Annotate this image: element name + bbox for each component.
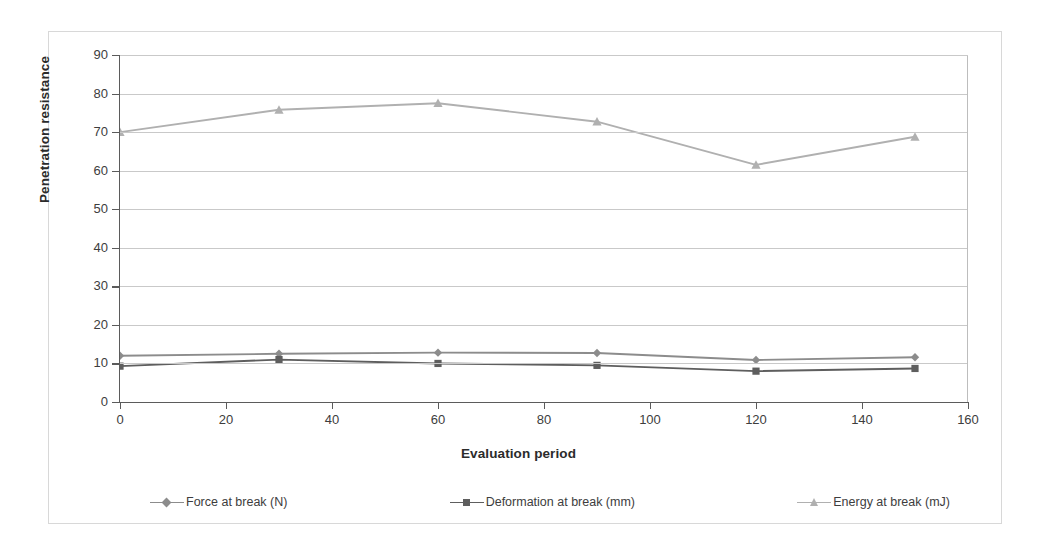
gridline <box>120 94 968 95</box>
x-tick-label: 140 <box>839 412 885 427</box>
data-point-marker <box>120 352 124 360</box>
square-marker-icon <box>463 499 470 506</box>
legend-entry-3[interactable]: Energy at break (mJ) <box>797 495 950 509</box>
chart-legend: Force at break (N)Deformation at break (… <box>120 492 980 512</box>
legend-label: Deformation at break (mm) <box>486 495 635 509</box>
y-tick-label: 70 <box>68 124 108 139</box>
series-plot <box>120 55 968 402</box>
x-tick-label: 20 <box>203 412 249 427</box>
x-tick-label: 80 <box>521 412 567 427</box>
y-tick-label: 90 <box>68 47 108 62</box>
series-line <box>120 360 915 372</box>
y-tick-mark <box>112 248 119 249</box>
x-tick-mark <box>862 402 863 409</box>
plot-border-right <box>967 55 968 403</box>
x-tick-label: 40 <box>309 412 355 427</box>
data-point-marker <box>434 348 442 356</box>
y-tick-mark <box>112 94 119 95</box>
gridline <box>120 132 968 133</box>
y-tick-label: 40 <box>68 240 108 255</box>
x-tick-mark <box>120 402 121 409</box>
y-tick-label: 0 <box>68 394 108 409</box>
gridline <box>120 325 968 326</box>
series-line <box>120 103 915 165</box>
x-tick-mark <box>968 402 969 409</box>
x-tick-mark <box>332 402 333 409</box>
y-tick-mark <box>112 55 119 56</box>
y-tick-label: 80 <box>68 86 108 101</box>
plot-area <box>120 55 968 402</box>
series-line <box>120 353 915 360</box>
y-axis-line <box>119 55 120 403</box>
x-tick-label: 0 <box>97 412 143 427</box>
gridline <box>120 248 968 249</box>
y-tick-label: 60 <box>68 163 108 178</box>
x-axis-title: Evaluation period <box>0 446 1037 461</box>
legend-entry-2[interactable]: Deformation at break (mm) <box>450 495 635 509</box>
y-tick-label: 20 <box>68 317 108 332</box>
diamond-marker-icon <box>162 497 172 507</box>
data-point-marker <box>911 365 918 372</box>
x-tick-mark <box>226 402 227 409</box>
data-point-marker <box>275 356 282 363</box>
legend-label: Energy at break (mJ) <box>833 495 950 509</box>
plot-border-top <box>120 55 968 56</box>
y-tick-mark <box>112 209 119 210</box>
y-tick-mark <box>112 286 119 287</box>
series-3 <box>120 99 920 169</box>
gridline <box>120 286 968 287</box>
x-tick-mark <box>544 402 545 409</box>
gridline <box>120 363 968 364</box>
gridline <box>120 171 968 172</box>
data-point-marker <box>911 353 919 361</box>
y-tick-mark <box>112 132 119 133</box>
legend-swatch-triangle-icon <box>797 496 831 508</box>
legend-entry-1[interactable]: Force at break (N) <box>150 495 287 509</box>
x-tick-label: 60 <box>415 412 461 427</box>
legend-swatch-square-icon <box>450 496 484 508</box>
x-tick-mark <box>438 402 439 409</box>
x-tick-mark <box>650 402 651 409</box>
y-axis-title: Penetration resistance <box>37 20 52 240</box>
x-tick-label: 160 <box>945 412 991 427</box>
y-tick-label: 30 <box>68 278 108 293</box>
data-point-marker <box>752 368 759 375</box>
x-tick-label: 100 <box>627 412 673 427</box>
x-tick-label: 120 <box>733 412 779 427</box>
data-point-marker <box>593 349 601 357</box>
y-tick-mark <box>112 325 119 326</box>
gridline <box>120 209 968 210</box>
x-tick-mark <box>756 402 757 409</box>
y-tick-label: 50 <box>68 201 108 216</box>
y-tick-mark <box>112 402 119 403</box>
triangle-marker-icon <box>810 498 818 506</box>
legend-label: Force at break (N) <box>186 495 287 509</box>
y-tick-label: 10 <box>68 355 108 370</box>
y-tick-mark <box>112 171 119 172</box>
legend-swatch-diamond-icon <box>150 496 184 508</box>
y-tick-mark <box>112 363 119 364</box>
